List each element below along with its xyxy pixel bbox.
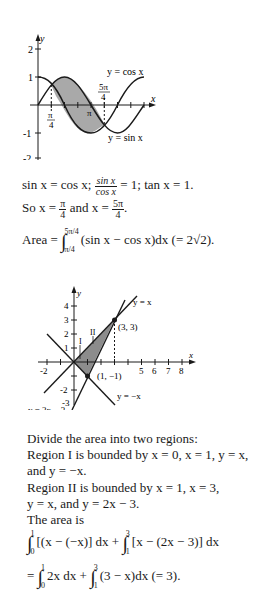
svg-text:y = cos x: y = cos x: [107, 66, 143, 77]
svg-text:2: 2: [64, 329, 69, 339]
fraction: 5π4: [112, 199, 124, 220]
integral-limits: 5π/4π/4: [65, 228, 79, 254]
svg-text:6: 6: [152, 366, 157, 376]
svg-text:(1, −1): (1, −1): [97, 371, 122, 381]
area-equation: Area = ∫5π/4π/4(sin x − cos x)dx (= 2√2)…: [22, 228, 214, 254]
svg-text:π: π: [87, 108, 92, 118]
svg-text:1: 1: [64, 343, 69, 353]
svg-text:y = x: y = x: [133, 297, 152, 307]
paragraph-5: y = x, and y = 2x − 3.: [27, 496, 139, 512]
svg-text:1: 1: [28, 72, 33, 83]
paragraph-1: Divide the area into two regions:: [27, 431, 198, 447]
paragraph-4: Region II is bounded by x = 1, x = 3,: [27, 480, 219, 496]
text: .: [124, 200, 127, 215]
text: Area =: [22, 232, 61, 247]
svg-text:4: 4: [101, 92, 106, 102]
paragraph-6: The area is: [27, 512, 84, 528]
text: (3 − x)dx (= 3).: [100, 568, 181, 583]
svg-text:y: y: [76, 288, 81, 298]
svg-text:y: y: [39, 33, 45, 44]
text: [x − (2x − 3)] dx: [132, 534, 219, 549]
svg-text:II: II: [90, 328, 96, 337]
svg-text:-1: -1: [23, 128, 31, 139]
svg-text:(3, 3): (3, 3): [118, 322, 138, 332]
svg-text:7: 7: [166, 366, 171, 376]
fraction: sin xcos x: [95, 176, 117, 197]
integral-limits: 31: [94, 564, 98, 590]
paragraph-2: Region I is bounded by x = 0, x = 1, y =…: [27, 447, 248, 463]
svg-text:5: 5: [139, 366, 144, 376]
integral-limits: 10: [41, 564, 45, 590]
svg-text:2: 2: [28, 44, 33, 55]
svg-text:4: 4: [49, 120, 54, 130]
svg-text:3: 3: [64, 315, 69, 325]
svg-text:-2: -2: [23, 153, 31, 160]
svg-text:-2: -2: [60, 385, 68, 395]
svg-text:I: I: [79, 337, 82, 346]
svg-text:-2: -2: [40, 366, 48, 376]
equation-line-2: So x = π4 and x = 5π4.: [22, 199, 127, 220]
equation-line-1: sin x = cos x; sin xcos x = 1; tan x = 1…: [22, 176, 193, 197]
text: So x =: [22, 200, 59, 215]
svg-text:y = sin x: y = sin x: [108, 132, 143, 143]
integral-limits: 31: [126, 530, 130, 556]
svg-text:y = −x: y = −x: [117, 391, 141, 401]
integral-limits: 10: [30, 530, 34, 556]
sin-cos-graph: y x 2 1 -1 -2 π 4 π 5π 4 y = cos x y = s…: [0, 0, 260, 160]
text: sin x = cos x;: [22, 177, 95, 192]
integral-line-1: ∫10[(x − (−x)] dx + ∫31[x − (2x − 3)] dx: [27, 530, 219, 556]
lines-graph: y x 4 3 2 1 -2 -3 -2 5 6 7 8 I II (3, 3)…: [0, 285, 260, 410]
text: (sin x − cos x)dx (= 2√2).: [81, 232, 214, 247]
text: [(x − (−x)] dx +: [36, 534, 122, 549]
text: and x =: [66, 200, 112, 215]
svg-text:8: 8: [179, 366, 184, 376]
paragraph-3: and y = −x.: [27, 463, 86, 479]
integral-line-2: = ∫102x dx + ∫31(3 − x)dx (= 3).: [27, 564, 180, 590]
svg-text:π: π: [48, 110, 53, 120]
svg-text:4: 4: [64, 301, 69, 311]
text: =: [27, 568, 38, 583]
svg-text:x: x: [188, 350, 193, 360]
svg-text:x: x: [150, 93, 156, 104]
svg-text:y = 2x − 3: y = 2x − 3: [28, 405, 66, 410]
text: 2x dx +: [47, 568, 90, 583]
svg-text:5π: 5π: [99, 82, 109, 92]
text: = 1; tan x = 1.: [117, 177, 193, 192]
